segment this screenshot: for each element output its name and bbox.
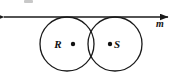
circle-S-label: S — [114, 38, 120, 50]
circle-R-center-point — [71, 42, 75, 46]
circle-S-center-point — [108, 42, 112, 46]
figure-canvas: m R S — [0, 0, 174, 75]
circle-R — [40, 17, 94, 71]
circle-R-group: R — [40, 17, 94, 71]
line-m-label: m — [156, 18, 164, 29]
clipped-text-artifact — [24, 0, 33, 3]
circle-S-group: S — [88, 17, 142, 71]
circle-R-label: R — [53, 38, 61, 50]
geometry-figure: m R S — [0, 0, 174, 75]
line-m-group: m — [4, 17, 168, 29]
